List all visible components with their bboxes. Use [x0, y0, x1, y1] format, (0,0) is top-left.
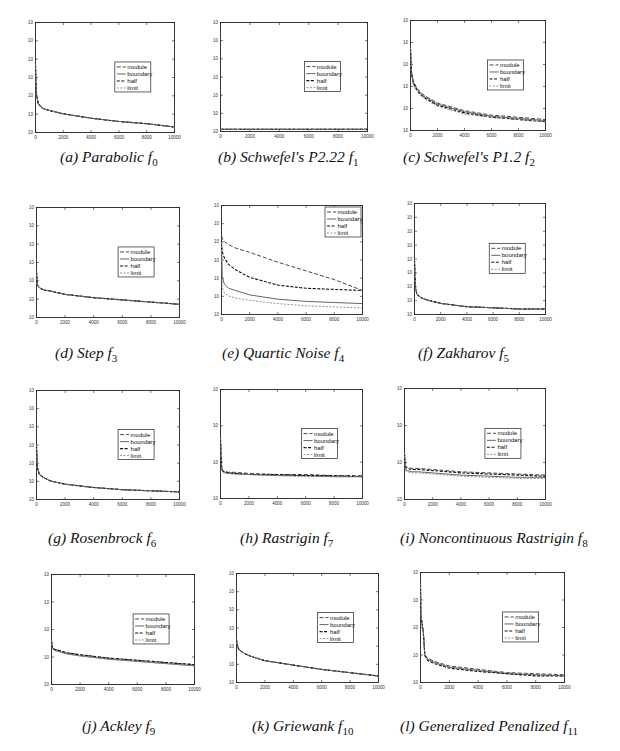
- svg-text:2000: 2000: [444, 685, 455, 690]
- svg-text:module: module: [146, 616, 166, 622]
- legend: moduleboundaryhalflimit: [489, 243, 527, 273]
- svg-text:10: 10: [214, 294, 220, 299]
- caption-subscript: 0: [152, 156, 158, 168]
- svg-text:10: 10: [29, 424, 35, 429]
- caption-noncontinuous-rastrigin: (i) Noncontinuous Rastrigin f8: [400, 529, 588, 549]
- svg-text:2000: 2000: [245, 317, 256, 322]
- svg-text:2000: 2000: [432, 133, 443, 138]
- svg-text:10: 10: [407, 284, 413, 289]
- caption-text: (f) Zakharov f: [418, 344, 504, 361]
- svg-text:10: 10: [213, 56, 219, 61]
- svg-text:10: 10: [29, 443, 35, 448]
- svg-text:10: 10: [213, 496, 219, 501]
- plot-svg: 020004000600080001000010101010101010modu…: [36, 207, 180, 318]
- svg-text:module: module: [515, 614, 535, 620]
- svg-text:10: 10: [29, 497, 35, 502]
- svg-text:half: half: [131, 263, 141, 269]
- svg-text:10: 10: [28, 20, 34, 25]
- svg-text:10000: 10000: [539, 502, 552, 507]
- plot-griewank: 020004000600080001000010101010101010modu…: [236, 573, 379, 683]
- svg-text:0: 0: [409, 133, 412, 138]
- plot-svg: 020004000600080001000010101010101010modu…: [36, 390, 180, 500]
- svg-text:8000: 8000: [512, 502, 523, 507]
- svg-text:10: 10: [407, 201, 413, 206]
- svg-text:limit: limit: [500, 83, 511, 89]
- svg-text:8000: 8000: [329, 317, 340, 322]
- svg-text:2000: 2000: [436, 317, 447, 322]
- caption-subscript: 9: [150, 725, 156, 737]
- caption-subscript: 10: [342, 725, 353, 737]
- svg-text:10: 10: [397, 460, 403, 465]
- svg-text:4000: 4000: [288, 685, 299, 690]
- plot-svg: 0200040006000800010000101010101010101010…: [414, 203, 546, 315]
- caption-ackley: (j) Ackley f9: [82, 717, 155, 737]
- caption-griewank: (k) Griewank f10: [252, 717, 353, 737]
- svg-text:module: module: [500, 62, 520, 68]
- svg-text:10: 10: [214, 221, 220, 226]
- svg-text:10: 10: [213, 93, 219, 98]
- svg-text:10000: 10000: [356, 317, 369, 322]
- caption-rastrigin: (h) Rastrigin f7: [240, 529, 333, 549]
- svg-text:10: 10: [214, 312, 220, 317]
- svg-text:10000: 10000: [173, 320, 186, 325]
- svg-text:10000: 10000: [188, 687, 201, 692]
- svg-text:10: 10: [29, 223, 35, 228]
- svg-text:10: 10: [407, 298, 413, 303]
- plot-parabolic: 020004000600080001000010101010101010modu…: [35, 22, 175, 133]
- legend: moduleboundaryhalflimit: [302, 429, 340, 459]
- caption-text: (c) Schwefel's P1.2 f: [403, 148, 529, 165]
- svg-text:module: module: [127, 64, 147, 70]
- caption-subscript: 1: [353, 156, 359, 168]
- svg-text:4000: 4000: [86, 135, 97, 140]
- caption-text: (l) Generalized Penalized f: [400, 717, 567, 734]
- svg-text:10: 10: [229, 662, 235, 667]
- caption-parabolic: (a) Parabolic f0: [60, 148, 158, 168]
- svg-text:boundary: boundary: [497, 437, 522, 443]
- svg-text:6000: 6000: [132, 687, 143, 692]
- caption-subscript: 4: [339, 352, 345, 364]
- svg-text:8000: 8000: [531, 685, 542, 690]
- svg-text:4000: 4000: [104, 687, 115, 692]
- svg-text:boundary: boundary: [131, 439, 156, 445]
- svg-text:4000: 4000: [89, 502, 100, 507]
- svg-text:boundary: boundary: [502, 252, 527, 258]
- legend: moduleboundaryhalflimit: [485, 428, 523, 458]
- plot-svg: 020004000600080001000010101010101010modu…: [220, 22, 368, 132]
- svg-text:10: 10: [229, 644, 235, 649]
- svg-text:module: module: [330, 615, 350, 621]
- svg-text:10000: 10000: [361, 134, 374, 139]
- svg-text:8000: 8000: [146, 502, 157, 507]
- svg-text:0: 0: [35, 502, 38, 507]
- svg-text:2000: 2000: [244, 501, 255, 506]
- svg-text:limit: limit: [338, 230, 349, 236]
- caption-text: (d) Step f: [55, 344, 112, 361]
- svg-text:0: 0: [220, 317, 223, 322]
- svg-text:10: 10: [229, 680, 235, 685]
- svg-text:2000: 2000: [60, 320, 71, 325]
- svg-text:4000: 4000: [473, 685, 484, 690]
- svg-text:10000: 10000: [539, 133, 552, 138]
- caption-subscript: 8: [582, 537, 588, 549]
- svg-text:10: 10: [397, 423, 403, 428]
- svg-text:module: module: [131, 249, 151, 255]
- legend: moduleboundaryhalflimit: [118, 430, 156, 460]
- svg-text:limit: limit: [314, 452, 325, 458]
- svg-text:boundary: boundary: [515, 621, 540, 627]
- svg-text:half: half: [500, 76, 510, 82]
- plot-schwefel-p2-22: 020004000600080001000010101010101010modu…: [220, 22, 368, 132]
- svg-text:10: 10: [407, 215, 413, 220]
- svg-text:10: 10: [29, 260, 35, 265]
- legend: moduleboundaryhalflimit: [488, 60, 526, 90]
- plot-quartic-noise: 020004000600080001000010101010101010modu…: [221, 205, 363, 315]
- svg-text:10: 10: [403, 106, 409, 111]
- plot-ackley: 02000400060008000100001010101010modulebo…: [51, 574, 195, 685]
- svg-text:8000: 8000: [329, 501, 340, 506]
- svg-text:limit: limit: [502, 266, 513, 272]
- legend: moduleboundaryhalflimit: [133, 614, 171, 644]
- plot-svg: 020004000600080001000010101010101010modu…: [221, 205, 363, 315]
- svg-text:limit: limit: [127, 85, 138, 91]
- plot-svg: 020004000600080001000010101010moduleboun…: [220, 389, 363, 499]
- plot-step: 020004000600080001000010101010101010modu…: [36, 207, 180, 318]
- svg-text:10: 10: [407, 243, 413, 248]
- svg-text:boundary: boundary: [314, 438, 339, 444]
